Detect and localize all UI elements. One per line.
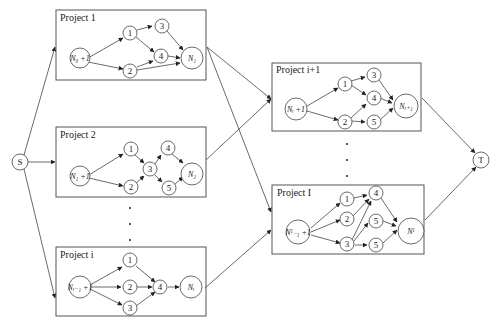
- end-node: Nᵢ₊₁: [394, 94, 418, 118]
- svg-text:3: 3: [128, 303, 133, 313]
- end-node: Nᵢ: [180, 276, 202, 298]
- ellipsis-right: [346, 143, 348, 177]
- activity-node: 1: [338, 77, 352, 91]
- svg-text:5: 5: [167, 183, 172, 193]
- source-node: S: [12, 154, 28, 170]
- source-edges: [24, 47, 55, 298]
- end-node: N₂: [181, 163, 203, 185]
- svg-text:2: 2: [343, 117, 348, 127]
- svg-text:Nᵢ₋₁ +1: Nᵢ₋₁ +1: [67, 283, 93, 292]
- svg-text:Nᵢ₊₁: Nᵢ₊₁: [398, 102, 413, 111]
- activity-node: 1: [340, 192, 354, 206]
- project-box-1: Project 1 N₀ +1 1 2 3 4 N₁: [56, 10, 206, 80]
- activity-node: 2: [123, 280, 137, 294]
- start-node: Nᵢ +1: [285, 98, 307, 120]
- svg-text:4: 4: [159, 51, 164, 61]
- svg-text:1: 1: [129, 144, 134, 154]
- activity-node: 5: [369, 238, 383, 252]
- svg-text:Project 2: Project 2: [60, 129, 96, 140]
- svg-text:4: 4: [374, 188, 379, 198]
- svg-text:4: 4: [372, 93, 377, 103]
- activity-node: 2: [123, 64, 137, 78]
- ellipsis-left: [129, 207, 131, 241]
- svg-text:5: 5: [372, 117, 377, 127]
- activity-node: 1: [124, 142, 138, 156]
- start-node: N₀ +1: [69, 48, 90, 68]
- activity-node: 5: [162, 181, 176, 195]
- svg-text:T: T: [478, 155, 484, 165]
- svg-text:5: 5: [374, 240, 379, 250]
- activity-node: 2: [338, 115, 352, 129]
- project-box-2: Project 2 N₁ +1 1 2 3 4 5 N₂: [56, 127, 206, 197]
- svg-text:2: 2: [128, 66, 133, 76]
- svg-text:1: 1: [345, 194, 350, 204]
- svg-text:Project i+1: Project i+1: [276, 64, 320, 75]
- activity-node: 4: [154, 49, 168, 63]
- activity-node: 5: [369, 214, 383, 228]
- svg-text:1: 1: [343, 79, 348, 89]
- svg-text:5: 5: [374, 216, 379, 226]
- svg-text:Project I: Project I: [277, 187, 311, 198]
- svg-text:1: 1: [128, 255, 133, 265]
- activity-node: 1: [123, 253, 137, 267]
- svg-text:Project 1: Project 1: [60, 12, 96, 23]
- svg-text:3: 3: [372, 70, 377, 80]
- project-box-last: Project I Nᴵ₋₁ +1 1 2 3 4 5 5 Nᴵ: [272, 185, 424, 254]
- svg-text:N₁: N₁: [187, 54, 196, 63]
- activity-node: 4: [161, 141, 175, 155]
- svg-text:2: 2: [129, 182, 134, 192]
- svg-text:N₂: N₂: [187, 170, 196, 179]
- svg-text:N₀ +1: N₀ +1: [69, 54, 90, 63]
- svg-text:Nᵢ: Nᵢ: [187, 283, 195, 292]
- svg-text:4: 4: [166, 143, 171, 153]
- activity-node: 2: [340, 212, 354, 226]
- svg-text:Project i: Project i: [60, 249, 94, 260]
- sink-node: T: [473, 152, 489, 168]
- project-box-i: Project i Nᵢ₋₁ +1 1 2 3 4 Nᵢ: [56, 247, 206, 316]
- svg-text:4: 4: [158, 282, 163, 292]
- activity-node: 5: [367, 115, 381, 129]
- svg-text:3: 3: [345, 239, 350, 249]
- activity-node: 1: [123, 26, 137, 40]
- svg-text:2: 2: [345, 214, 350, 224]
- end-node: N₁: [181, 47, 203, 69]
- activity-node: 3: [123, 301, 137, 315]
- activity-node: 3: [155, 19, 169, 33]
- activity-node: 3: [143, 162, 157, 176]
- svg-text:Nᴵ₋₁ +1: Nᴵ₋₁ +1: [284, 228, 311, 237]
- start-node: N₁ +1: [69, 166, 90, 186]
- svg-text:3: 3: [148, 164, 153, 174]
- activity-node: 4: [153, 280, 167, 294]
- svg-text:Nᴵ: Nᴵ: [406, 227, 415, 236]
- project-network-diagram: S T Project 1 N₀ +1 1 2 3 4 N₁: [0, 0, 501, 327]
- end-node: Nᴵ: [398, 218, 424, 244]
- svg-text:1: 1: [128, 28, 133, 38]
- svg-text:N₁ +1: N₁ +1: [69, 172, 90, 181]
- activity-node: 4: [369, 186, 383, 200]
- activity-node: 3: [367, 68, 381, 82]
- svg-text:S: S: [17, 157, 22, 167]
- activity-node: 2: [124, 180, 138, 194]
- activity-node: 4: [367, 91, 381, 105]
- start-node: Nᵢ₋₁ +1: [67, 276, 93, 298]
- svg-text:2: 2: [128, 282, 133, 292]
- svg-text:3: 3: [160, 21, 165, 31]
- activity-node: 3: [340, 237, 354, 251]
- svg-text:Nᵢ +1: Nᵢ +1: [286, 105, 305, 114]
- project-box-i-plus-1: Project i+1 Nᵢ +1 1 2 3 4 5 Nᵢ₊₁: [272, 63, 421, 131]
- start-node: Nᴵ₋₁ +1: [284, 220, 311, 244]
